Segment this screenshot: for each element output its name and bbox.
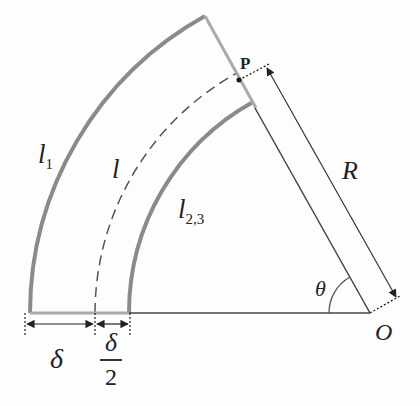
radius-dimension	[267, 68, 396, 297]
diagram-canvas: l1 l l2,3 R P θ O δ δ 2	[0, 0, 420, 406]
mid-arc-dashed	[95, 73, 237, 313]
origin-label: O	[375, 320, 392, 344]
fraction-numerator: δ	[96, 330, 126, 356]
point-p-label: P	[240, 55, 250, 72]
angle-arc	[329, 277, 350, 313]
angle-label: θ	[315, 278, 326, 300]
thickness-label: δ	[50, 345, 63, 373]
radius-label: R	[342, 158, 358, 184]
half-thickness-fraction: δ 2	[96, 330, 126, 390]
mid-arc-label: l	[112, 156, 120, 183]
o-extension	[370, 296, 400, 313]
outer-arc-label: l1	[38, 141, 53, 172]
fraction-bar	[100, 359, 122, 361]
radial-line	[255, 108, 370, 313]
inner-arc-label: l2,3	[178, 196, 204, 227]
fraction-denominator: 2	[96, 364, 126, 390]
